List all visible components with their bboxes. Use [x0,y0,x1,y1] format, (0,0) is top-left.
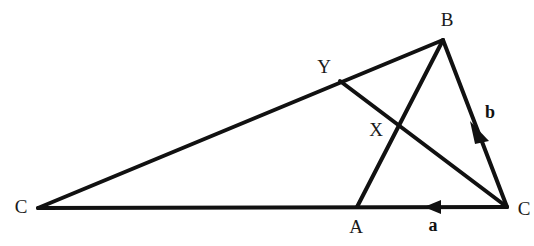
figure-canvas [0,0,534,246]
vector-label-b: b [485,103,495,121]
vector-b-arrowhead [470,121,489,144]
point-label-C-left: C [15,197,28,216]
segment-group [38,40,507,208]
point-label-C-right: C [518,199,531,218]
vector-label-a: a [429,216,438,234]
geometry-figure: C B C A X Y a b [0,0,534,246]
point-label-X: X [369,120,383,139]
vector-a-arrowhead [424,200,441,214]
point-label-Y: Y [317,57,331,76]
point-label-B: B [441,10,454,29]
point-label-A: A [349,217,363,236]
